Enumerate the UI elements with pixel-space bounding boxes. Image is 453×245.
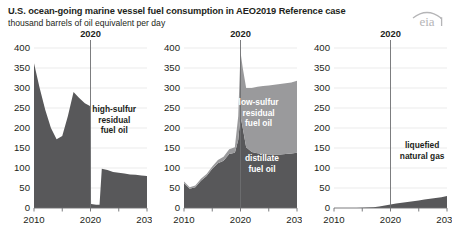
panel-plot: 2020050100150200250300350400201020202030…	[2, 28, 152, 245]
projection-year-label: 2020	[380, 29, 401, 39]
y-axis-tick-label: 0	[25, 202, 30, 213]
y-axis-tick-label: 200	[14, 122, 30, 133]
chart-panels: 2020050100150200250300350400201020202030…	[0, 28, 453, 245]
y-axis-tick-label: 200	[314, 122, 330, 133]
x-axis-tick-label: 2010	[173, 214, 194, 225]
panel-liquefied-natural-gas: 2020050100150200250300350400201020202030…	[300, 28, 452, 245]
y-axis-tick-label: 50	[319, 182, 330, 193]
y-axis-tick-label: 150	[164, 142, 180, 153]
y-axis-tick-label: 100	[14, 162, 30, 173]
panel-plot: 2020050100150200250300350400201020202030…	[300, 28, 452, 245]
y-axis-tick-label: 400	[164, 42, 180, 53]
y-axis-tick-label: 300	[314, 82, 330, 93]
svg-text:eia: eia	[419, 14, 434, 29]
y-axis-tick-label: 350	[314, 62, 330, 73]
y-axis-tick-label: 100	[164, 162, 180, 173]
panel-plot: 2020050100150200250300350400201020202030…	[150, 28, 302, 245]
y-axis-tick-label: 50	[19, 182, 30, 193]
x-axis-tick-label: 2020	[380, 214, 401, 225]
projection-year-label: 2020	[230, 29, 251, 39]
series-annotation-high-sulfur: fuel oil	[101, 125, 128, 135]
y-axis-tick-label: 250	[164, 102, 180, 113]
y-axis-tick-label: 250	[314, 102, 330, 113]
x-axis-tick-label: 2020	[230, 214, 251, 225]
x-axis-tick-label: 2030	[436, 214, 452, 225]
y-axis-tick-label: 200	[164, 122, 180, 133]
projection-year-label: 2020	[80, 29, 101, 39]
y-axis-tick-label: 150	[14, 142, 30, 153]
series-annotation-lng: liquefied	[405, 140, 439, 150]
panel-high-sulfur-residual-fuel-oil: 2020050100150200250300350400201020202030…	[2, 28, 152, 245]
y-axis-tick-label: 400	[14, 42, 30, 53]
y-axis-tick-label: 300	[14, 82, 30, 93]
series-annotation-low-sulfur: fuel oil	[245, 118, 272, 128]
series-annotation-high-sulfur: residual	[98, 115, 130, 125]
x-axis-tick-label: 2020	[80, 214, 101, 225]
series-annotation-distillate: fuel oil	[248, 164, 275, 174]
series-annotation-distillate: distillate	[245, 153, 279, 163]
y-axis-tick-label: 0	[175, 202, 180, 213]
y-axis-tick-label: 350	[164, 62, 180, 73]
y-axis-tick-label: 400	[314, 42, 330, 53]
x-axis-tick-label: 2010	[23, 214, 44, 225]
series-annotation-lng: natural gas	[400, 151, 445, 161]
y-axis-tick-label: 300	[164, 82, 180, 93]
y-axis-tick-label: 150	[314, 142, 330, 153]
panel-low-sulfur-residual-and-distillate: 2020050100150200250300350400201020202030…	[150, 28, 302, 245]
chart-subtitle: thousand barrels of oil equivalent per d…	[8, 18, 165, 28]
series-annotation-low-sulfur: residual	[243, 108, 275, 118]
y-axis-tick-label: 250	[14, 102, 30, 113]
y-axis-tick-label: 0	[325, 202, 330, 213]
y-axis-tick-label: 350	[14, 62, 30, 73]
y-axis-tick-label: 50	[169, 182, 180, 193]
series-annotation-low-sulfur: low-sulfur	[239, 97, 280, 107]
eia-logo: eia	[407, 5, 447, 29]
y-axis-tick-label: 100	[314, 162, 330, 173]
series-annotation-high-sulfur: high-sulfur	[92, 104, 136, 114]
x-axis-tick-label: 2010	[323, 214, 344, 225]
chart-title: U.S. ocean-going marine vessel fuel cons…	[8, 6, 346, 16]
